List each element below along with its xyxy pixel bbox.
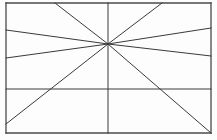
perspective-diagram-svg	[0, 0, 217, 140]
diagram-canvas	[0, 0, 217, 140]
